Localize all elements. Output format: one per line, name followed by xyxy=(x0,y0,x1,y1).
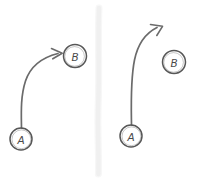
arrow-left[interactable] xyxy=(21,49,62,129)
right-panel: A B xyxy=(120,25,186,148)
diagram-canvas: A B A xyxy=(0,0,198,182)
node-a-right[interactable]: A xyxy=(120,125,142,147)
node-a-right-label: A xyxy=(126,131,134,143)
node-a-left-label: A xyxy=(16,134,24,146)
node-b-right-label: B xyxy=(170,57,177,69)
arrow-right-curve xyxy=(131,28,157,126)
panel-divider xyxy=(98,8,99,174)
node-a-left[interactable]: A xyxy=(10,128,32,150)
arrow-left-curve xyxy=(21,54,58,129)
panel-divider-line xyxy=(98,8,99,174)
node-b-right[interactable]: B xyxy=(163,51,186,74)
arrow-right[interactable] xyxy=(131,25,162,126)
node-b-left[interactable]: B xyxy=(64,45,87,68)
node-b-left-label: B xyxy=(71,51,78,63)
left-panel: A B xyxy=(10,45,87,151)
sketch-diagram: A B A xyxy=(0,0,198,182)
